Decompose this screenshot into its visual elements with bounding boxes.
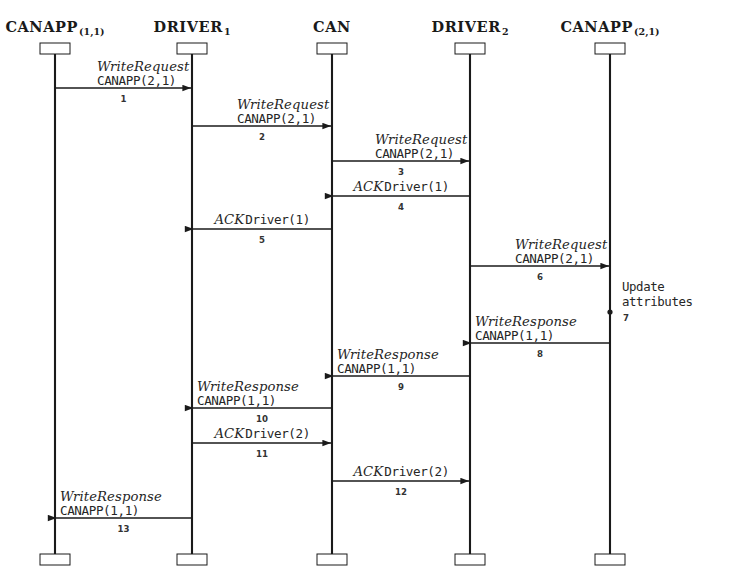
message-payload: CANAPP(2,1) [515, 252, 607, 265]
message-operation: WriteRequest [515, 238, 607, 252]
message-number-8: 8 [537, 349, 543, 359]
message-number-9: 9 [398, 382, 404, 392]
participant-subscript: (1,1) [78, 26, 105, 37]
message-payload: Driver(1) [244, 212, 310, 227]
message-payload: Driver(2) [244, 426, 310, 441]
message-label-10: WriteResponseCANAPP(1,1) [197, 380, 299, 407]
message-number-2: 2 [259, 132, 265, 142]
message-label-11: ACKDriver(2) [215, 425, 310, 442]
message-label-5: ACKDriver(1) [215, 211, 310, 228]
sequence-diagram: CANAPP(1,1)DRIVER1CANDRIVER2CANAPP(2,1)U… [0, 0, 737, 588]
message-operation: WriteResponse [475, 315, 577, 329]
message-label-9: WriteResponseCANAPP(1,1) [337, 348, 439, 375]
message-number-11: 11 [256, 449, 268, 459]
head-box-driver1[interactable] [177, 43, 207, 54]
message-number-12: 12 [395, 487, 407, 497]
foot-box-canapp21[interactable] [595, 554, 625, 565]
head-box-canapp11[interactable] [40, 43, 70, 54]
message-operation: WriteResponse [197, 380, 299, 394]
message-operation: WriteResponse [337, 348, 439, 362]
message-payload: CANAPP(2,1) [375, 147, 467, 160]
head-box-driver2[interactable] [455, 43, 485, 54]
message-payload: Driver(1) [383, 179, 449, 194]
note-number-7: 7 [623, 313, 629, 323]
message-operation: WriteResponse [60, 490, 162, 504]
message-operation: WriteRequest [97, 60, 189, 74]
message-label-12: ACKDriver(2) [354, 463, 449, 480]
message-label-4: ACKDriver(1) [354, 178, 449, 195]
foot-box-can[interactable] [317, 554, 347, 565]
message-operation: ACK [354, 179, 384, 194]
foot-box-canapp11[interactable] [40, 554, 70, 565]
message-label-8: WriteResponseCANAPP(1,1) [475, 315, 577, 342]
message-payload: CANAPP(2,1) [237, 112, 329, 125]
activity-markers-group [607, 309, 612, 314]
note-text-line2: attributes [622, 294, 693, 309]
message-label-1: WriteRequestCANAPP(2,1) [97, 60, 189, 87]
participant-subscript: (2,1) [633, 26, 660, 37]
head-box-canapp21[interactable] [595, 43, 625, 54]
note-7: Updateattributes [622, 280, 693, 309]
message-number-4: 4 [398, 202, 404, 212]
participant-label-driver1: DRIVER1 [154, 18, 231, 37]
message-number-1: 1 [121, 94, 127, 104]
message-operation: ACK [215, 426, 245, 441]
message-operation: ACK [215, 212, 245, 227]
message-label-3: WriteRequestCANAPP(2,1) [375, 133, 467, 160]
participant-name: CANAPP [560, 18, 633, 35]
participant-label-canapp21: CANAPP(2,1) [560, 18, 659, 37]
message-number-3: 3 [398, 167, 404, 177]
message-payload: CANAPP(2,1) [97, 74, 189, 87]
message-payload: CANAPP(1,1) [60, 504, 162, 517]
participant-subscript: 2 [501, 26, 509, 37]
participant-label-can: CAN [313, 18, 351, 35]
message-payload: Driver(2) [383, 464, 449, 479]
participant-label-driver2: DRIVER2 [432, 18, 509, 37]
message-operation: WriteRequest [375, 133, 467, 147]
note-text-line1: Update [622, 279, 664, 294]
message-number-6: 6 [537, 272, 543, 282]
message-label-13: WriteResponseCANAPP(1,1) [60, 490, 162, 517]
activity-dot-7 [607, 309, 612, 314]
message-number-5: 5 [259, 235, 265, 245]
foot-box-driver1[interactable] [177, 554, 207, 565]
participant-name: CANAPP [5, 18, 78, 35]
participant-label-canapp11: CANAPP(1,1) [5, 18, 104, 37]
message-payload: CANAPP(1,1) [475, 329, 577, 342]
participant-name: DRIVER [154, 18, 223, 35]
message-label-2: WriteRequestCANAPP(2,1) [237, 98, 329, 125]
lifelines-group [40, 43, 625, 565]
message-number-10: 10 [256, 414, 268, 424]
message-payload: CANAPP(1,1) [197, 394, 299, 407]
message-label-6: WriteRequestCANAPP(2,1) [515, 238, 607, 265]
message-number-13: 13 [118, 524, 130, 534]
message-operation: WriteRequest [237, 98, 329, 112]
foot-box-driver2[interactable] [455, 554, 485, 565]
participant-name: CAN [313, 18, 351, 35]
participant-subscript: 1 [223, 26, 231, 37]
message-operation: ACK [354, 464, 384, 479]
participant-name: DRIVER [432, 18, 501, 35]
message-payload: CANAPP(1,1) [337, 362, 439, 375]
head-box-can[interactable] [317, 43, 347, 54]
